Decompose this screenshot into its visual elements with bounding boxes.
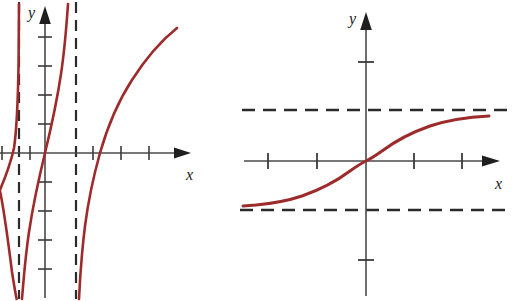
arctangent-graph-panel: x y xyxy=(230,0,515,301)
x-axis xyxy=(0,148,191,159)
x-axis-label: x xyxy=(185,166,193,183)
y-axis-label: y xyxy=(26,4,36,22)
tangent-branch-right xyxy=(79,28,177,299)
tangent-graph-panel: x y xyxy=(0,0,230,301)
y-axis xyxy=(360,12,372,296)
x-axis-label: x xyxy=(494,175,502,192)
tangent-branch-left-tail xyxy=(0,191,17,299)
figure-root: x y xyxy=(0,0,515,301)
tangent-branch-left xyxy=(0,4,19,190)
tangent-graph-svg: x y xyxy=(0,0,230,301)
arctangent-graph-svg: x y xyxy=(230,0,515,301)
y-axis-label: y xyxy=(347,10,357,28)
tangent-curve-group xyxy=(0,4,177,299)
